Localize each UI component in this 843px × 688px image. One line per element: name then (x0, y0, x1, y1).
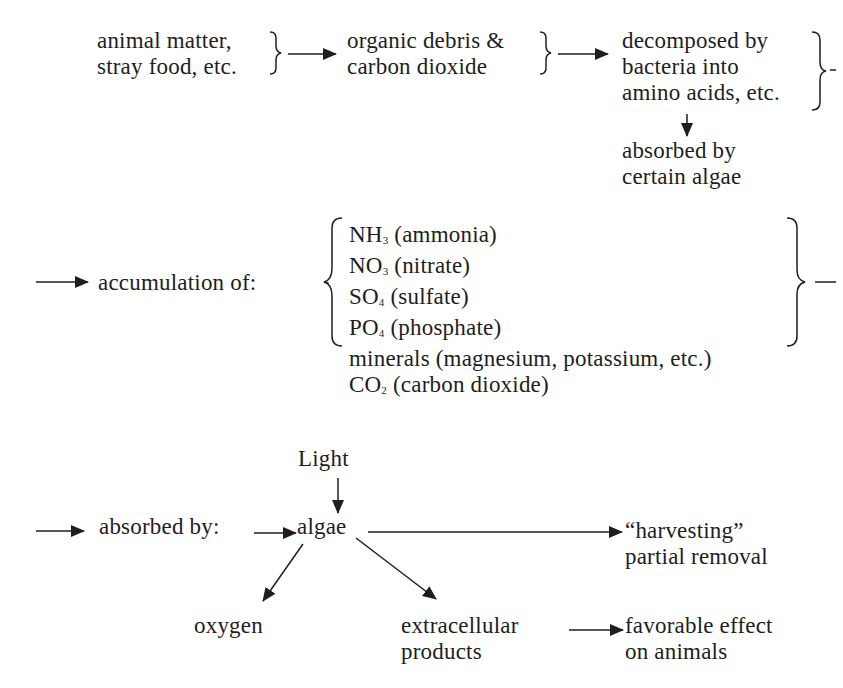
brace-icon (787, 218, 805, 346)
arrow-icon (356, 538, 436, 599)
diagram-connectors (0, 0, 843, 688)
brace-icon (324, 218, 342, 346)
brace-icon (812, 32, 826, 110)
brace-icon (540, 32, 551, 74)
brace-icon (270, 32, 281, 74)
arrow-icon (263, 544, 303, 601)
